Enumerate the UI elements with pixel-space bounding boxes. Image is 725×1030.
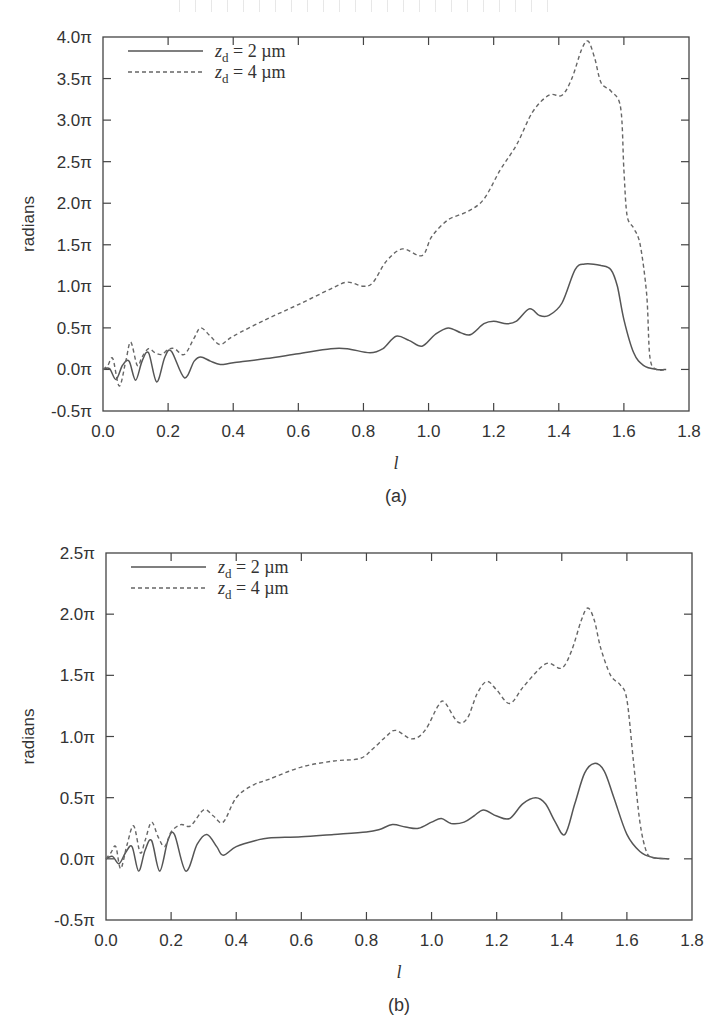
x-tick-label: 0.0 [91, 422, 115, 441]
x-tick-label: 1.4 [547, 422, 571, 441]
y-tick-label: -0.5π [54, 911, 95, 930]
legend-value: = 2 µm [229, 41, 286, 61]
plot-a: 0.00.20.40.60.81.01.21.41.61.8-0.5π0.0π0… [19, 28, 701, 506]
x-axis-title: l [396, 962, 401, 982]
figure-caption: (b) [388, 995, 410, 1015]
y-tick-label: 2.5π [60, 544, 95, 563]
y-tick-label: 0.0π [60, 850, 95, 869]
figure-caption: (a) [385, 486, 407, 506]
x-tick-label: 0.6 [290, 931, 314, 950]
figure: 0.00.20.40.60.81.01.21.41.61.8-0.5π0.0π0… [0, 0, 725, 1030]
x-tick-label: 1.8 [677, 422, 701, 441]
plot-frame [103, 37, 689, 411]
plot-frame [106, 553, 692, 920]
y-tick-label: -0.5π [51, 402, 92, 421]
plot-b: 0.00.20.40.60.81.01.21.41.61.8-0.5π0.0π0… [19, 544, 704, 1015]
x-tick-label: 1.6 [612, 422, 636, 441]
legend-value: = 4 µm [232, 578, 289, 598]
legend: zd = 2 µmzd = 4 µm [131, 557, 289, 602]
y-tick-label: 1.0π [60, 728, 95, 747]
legend-value: = 2 µm [232, 557, 289, 577]
y-tick-label: 2.0π [57, 194, 92, 213]
y-tick-label: 1.5π [60, 666, 95, 685]
y-tick-label: 4.0π [57, 28, 92, 47]
series-line-zd-4um [103, 41, 666, 386]
x-tick-label: 0.8 [352, 422, 376, 441]
legend-label: zd = 4 µm [214, 62, 286, 86]
y-tick-label: 2.5π [57, 153, 92, 172]
x-tick-label: 0.2 [159, 931, 183, 950]
x-tick-label: 1.0 [420, 931, 444, 950]
legend-symbol: z [217, 578, 225, 598]
series-line-zd-4um [106, 608, 669, 869]
x-tick-label: 0.6 [287, 422, 311, 441]
y-tick-label: 2.0π [60, 605, 95, 624]
x-tick-label: 1.6 [615, 931, 639, 950]
x-tick-label: 1.4 [550, 931, 574, 950]
legend-symbol: z [217, 557, 225, 577]
series-line-zd-2um [106, 763, 669, 871]
x-axis-title: l [393, 453, 398, 473]
legend-label: zd = 4 µm [217, 578, 289, 602]
y-tick-label: 0.0π [57, 360, 92, 379]
y-tick-label: 0.5π [57, 319, 92, 338]
x-tick-label: 0.4 [224, 931, 248, 950]
legend-symbol: z [214, 62, 222, 82]
y-tick-label: 1.0π [57, 277, 92, 296]
series-line-zd-2um [103, 264, 666, 382]
x-tick-label: 0.8 [355, 931, 379, 950]
legend-value: = 4 µm [229, 62, 286, 82]
y-tick-label: 1.5π [57, 236, 92, 255]
x-tick-label: 0.2 [156, 422, 180, 441]
y-tick-label: 3.0π [57, 111, 92, 130]
y-axis-title: radians [19, 709, 38, 765]
legend-symbol: z [214, 41, 222, 61]
y-axis-title: radians [19, 196, 38, 252]
x-tick-label: 1.2 [482, 422, 506, 441]
x-tick-label: 0.4 [221, 422, 245, 441]
x-tick-label: 1.8 [680, 931, 704, 950]
y-tick-label: 0.5π [60, 789, 95, 808]
x-tick-label: 1.0 [417, 422, 441, 441]
x-tick-label: 1.2 [485, 931, 509, 950]
x-tick-label: 0.0 [94, 931, 118, 950]
y-tick-label: 3.5π [57, 70, 92, 89]
legend: zd = 2 µmzd = 4 µm [128, 41, 286, 86]
